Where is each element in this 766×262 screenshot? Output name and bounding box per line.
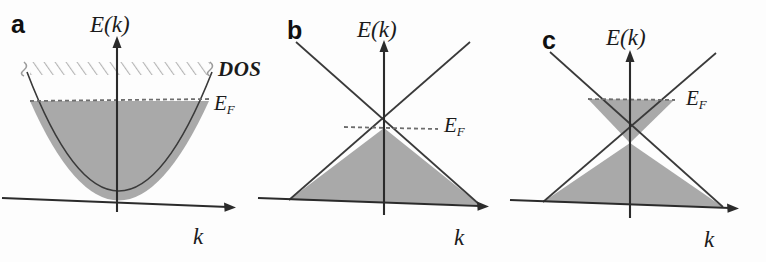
fermi-label-a-sub: F [227, 102, 235, 117]
momentum-axis-arrow-b [477, 202, 489, 211]
energy-axis-arrow-a [113, 36, 122, 48]
panel-a: a E(k) DOS EF k [0, 0, 262, 262]
panel-letter-c: c [542, 28, 556, 53]
energy-axis-label-a: E(k) [90, 13, 130, 36]
filled-band-region-a [30, 101, 209, 201]
panel-a-graphic [0, 0, 262, 262]
panel-letter-a: a [11, 12, 25, 37]
figure-container: a E(k) DOS EF k b E(k) [0, 0, 766, 262]
momentum-axis-label-b: k [454, 226, 464, 249]
energy-axis-label-b: E(k) [357, 18, 397, 41]
dos-hatch-band [30, 62, 210, 75]
energy-axis-label-c-text: E(k) [606, 25, 646, 50]
momentum-axis-arrow-c [727, 204, 739, 213]
fermi-label-a: EF [214, 93, 235, 114]
hatch-break-left-icon [22, 62, 27, 76]
fermi-label-b-sub: F [457, 124, 465, 139]
energy-axis-label-b-text: E(k) [357, 17, 397, 42]
momentum-axis-label-c: k [704, 228, 714, 251]
panel-letter-b: b [287, 18, 302, 43]
fermi-label-c-e: E [686, 86, 699, 110]
fermi-label-a-e: E [214, 91, 227, 115]
energy-axis-label-c: E(k) [606, 26, 646, 49]
momentum-axis-label-a: k [193, 225, 203, 248]
energy-axis-arrow-c [626, 50, 635, 62]
fermi-level-line-b [344, 127, 438, 129]
fermi-label-b: EF [444, 115, 465, 136]
panel-c: c E(k) EF k [508, 0, 766, 262]
fermi-level-line-a [30, 99, 209, 101]
energy-axis-label-a-text: E(k) [90, 12, 130, 37]
fermi-label-c-sub: F [699, 97, 707, 112]
fermi-label-c: EF [686, 88, 707, 109]
filled-valence-cone-c [543, 143, 723, 207]
panel-b: b E(k) EF k [256, 0, 511, 262]
fermi-label-b-e: E [444, 113, 457, 137]
momentum-axis-arrow-a [224, 203, 236, 212]
dos-label: DOS [218, 59, 262, 80]
